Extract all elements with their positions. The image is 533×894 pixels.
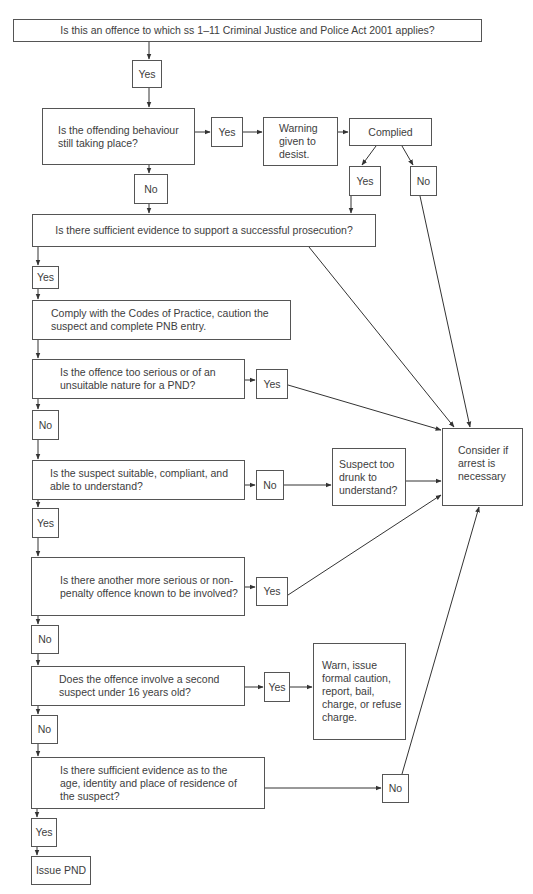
- answer-no-serious: No: [32, 410, 59, 440]
- answer-complied-yes: Yes: [349, 166, 381, 196]
- node-text: Is the offending behaviour still taking …: [58, 124, 190, 150]
- answer-no-another: No: [31, 625, 59, 654]
- answer-complied-no: No: [410, 166, 437, 196]
- node-text: No: [38, 633, 51, 646]
- action-comply-codes: Comply with the Codes of Practice, cauti…: [32, 300, 291, 340]
- answer-no-ongoing: No: [134, 174, 168, 204]
- outcome-consider-arrest: Consider if arrest is necessary: [442, 428, 523, 506]
- answer-no-under16: No: [31, 715, 58, 744]
- node-text: No: [263, 479, 276, 492]
- question-another-offence: Is there another more serious or non-pen…: [31, 557, 245, 616]
- node-text: Is the offence too serious or of an unsu…: [60, 366, 240, 392]
- question-identity-evidence: Is there sufficient evidence as to the a…: [31, 757, 265, 809]
- node-text: Complied: [368, 126, 412, 139]
- node-text: Yes: [138, 68, 155, 81]
- node-text: Is this an offence to which ss 1–11 Crim…: [60, 24, 434, 37]
- node-text: Suspect too drunk to understand?: [339, 458, 402, 497]
- answer-yes-identity: Yes: [31, 818, 57, 847]
- answer-yes-ongoing: Yes: [211, 117, 243, 147]
- node-text: Is there sufficient evidence to support …: [55, 224, 352, 237]
- node-text: Does the offence involve a second suspec…: [59, 673, 240, 699]
- outcome-issue-pnd: Issue PND: [31, 856, 91, 885]
- node-text: Yes: [37, 271, 54, 284]
- question-behaviour-ongoing: Is the offending behaviour still taking …: [42, 108, 195, 165]
- node-text: Warning given to desist.: [279, 122, 333, 161]
- node-text: Issue PND: [36, 864, 86, 877]
- node-text: Is the suspect suitable, compliant, and …: [50, 467, 240, 493]
- node-text: Is there another more serious or non-pen…: [60, 574, 240, 600]
- outcome-warn-options: Warn, issue formal caution, report, bail…: [313, 643, 406, 740]
- node-text: Yes: [263, 585, 280, 598]
- node-text: Yes: [35, 826, 52, 839]
- node-text: Yes: [356, 175, 373, 188]
- question-sufficient-evidence: Is there sufficient evidence to support …: [32, 214, 376, 247]
- answer-yes-serious: Yes: [256, 369, 288, 399]
- node-text: No: [417, 175, 430, 188]
- node-text: Is there sufficient evidence as to the a…: [60, 764, 244, 803]
- node-text: Comply with the Codes of Practice, cauti…: [51, 307, 284, 333]
- node-text: Consider if arrest is necessary: [458, 444, 519, 483]
- decision-complied: Complied: [349, 118, 432, 146]
- node-text: No: [38, 723, 51, 736]
- answer-yes-evidence: Yes: [32, 266, 59, 289]
- node-text: Warn, issue formal caution, report, bail…: [322, 659, 402, 724]
- question-too-serious: Is the offence too serious or of an unsu…: [32, 359, 245, 399]
- question-too-drunk: Suspect too drunk to understand?: [332, 448, 406, 506]
- node-text: Yes: [37, 517, 54, 530]
- answer-yes-applies: Yes: [132, 60, 162, 88]
- answer-no-identity: No: [382, 774, 409, 803]
- answer-no-suitable: No: [256, 470, 284, 500]
- answer-yes-under16: Yes: [264, 672, 290, 702]
- node-text: Yes: [218, 126, 235, 139]
- question-second-suspect-under16: Does the offence involve a second suspec…: [31, 666, 245, 706]
- question-offence-applies: Is this an offence to which ss 1–11 Crim…: [13, 19, 482, 42]
- node-text: Yes: [268, 681, 285, 694]
- node-text: Yes: [263, 378, 280, 391]
- answer-yes-another: Yes: [256, 577, 288, 606]
- node-text: No: [144, 183, 157, 196]
- node-text: No: [389, 782, 402, 795]
- node-text: No: [39, 419, 52, 432]
- action-warning-desist: Warning given to desist.: [263, 117, 338, 166]
- question-suspect-suitable: Is the suspect suitable, compliant, and …: [32, 460, 245, 500]
- answer-yes-suitable: Yes: [32, 508, 59, 538]
